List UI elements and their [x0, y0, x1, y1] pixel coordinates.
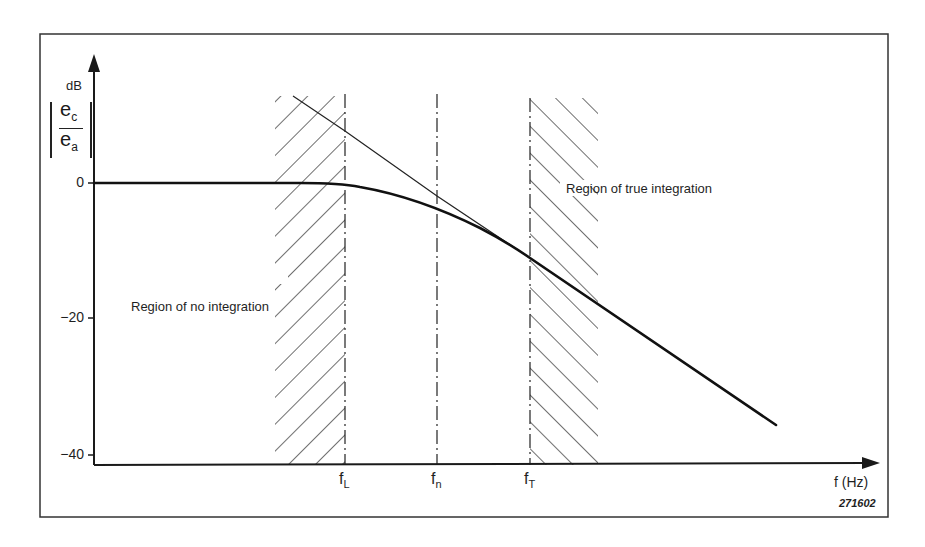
x-axis — [94, 463, 866, 465]
figure-code: 271602 — [839, 497, 876, 509]
region-no-integration-label: Region of no integration — [131, 299, 269, 314]
y-tick-minus20: −20 — [44, 309, 84, 325]
x-axis-label: f (Hz) — [834, 474, 868, 490]
y-axis-arrow-icon — [88, 54, 100, 72]
x-axis-arrow-icon — [862, 457, 880, 469]
bode-plot — [0, 0, 925, 547]
y-unit-label: dB — [66, 78, 82, 93]
ratio-numerator: ec — [60, 98, 77, 124]
x-marker-fn: fn — [431, 470, 442, 490]
region-true-integration-label: Region of true integration — [566, 181, 712, 196]
y-axis-expression: ec ea — [50, 100, 92, 160]
figure-frame — [40, 34, 888, 517]
ratio-denominator: ea — [60, 128, 78, 154]
y-tick-minus40: −40 — [44, 446, 84, 462]
y-tick-0: 0 — [44, 174, 84, 190]
x-marker-fT: fT — [524, 470, 535, 490]
x-marker-fL: fL — [339, 470, 350, 490]
